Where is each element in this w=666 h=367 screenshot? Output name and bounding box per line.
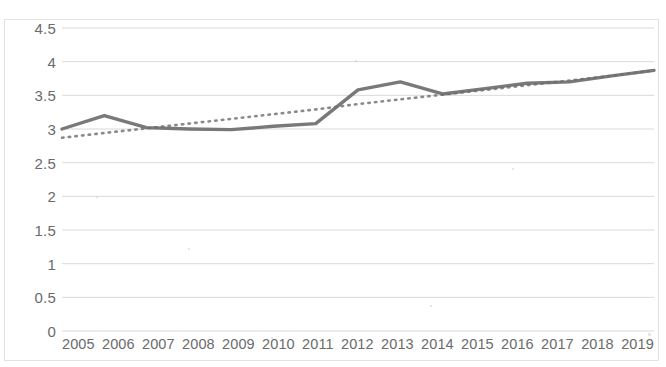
y-axis-tick-label: 1 [10, 255, 56, 272]
y-axis-tick-label: 4.5 [10, 20, 56, 37]
plot-area [0, 0, 666, 367]
y-axis-tick-label: 2.5 [10, 154, 56, 171]
line-chart: 4.543.532.521.510.50 2005200620072008200… [0, 0, 666, 367]
x-axis-tick-label: 2015 [461, 336, 494, 352]
x-axis-tick-label: 2005 [62, 336, 95, 352]
x-axis-tick-label: 2012 [341, 336, 374, 352]
y-axis-tick-label: 2 [10, 188, 56, 205]
x-axis-tick-label: 2017 [541, 336, 574, 352]
x-axis: 2005200620072008200920102011201220132014… [62, 336, 654, 362]
x-axis-tick-label: 2011 [302, 336, 334, 352]
x-axis-tick-label: 2008 [182, 336, 215, 352]
x-axis-tick-label: 2016 [501, 336, 534, 352]
y-axis: 4.543.532.521.510.50 [10, 0, 56, 367]
y-axis-tick-label: 3 [10, 121, 56, 138]
x-axis-tick-label: 2006 [102, 336, 135, 352]
data-series-line [62, 70, 654, 129]
y-axis-tick-label: 1.5 [10, 222, 56, 239]
x-axis-tick-label: 2014 [421, 336, 454, 352]
gridlines [62, 28, 654, 331]
y-axis-tick-label: 0.5 [10, 289, 56, 306]
x-axis-tick-label: 2007 [142, 336, 175, 352]
x-axis-tick-label: 2013 [381, 336, 414, 352]
x-axis-tick-label: 2009 [222, 336, 255, 352]
x-axis-tick-label: 2019 [621, 336, 654, 352]
x-axis-tick-label: 2018 [581, 336, 614, 352]
y-axis-tick-label: 4 [10, 53, 56, 70]
y-axis-tick-label: 0 [10, 323, 56, 340]
x-axis-tick-label: 2010 [262, 336, 295, 352]
y-axis-tick-label: 3.5 [10, 87, 56, 104]
